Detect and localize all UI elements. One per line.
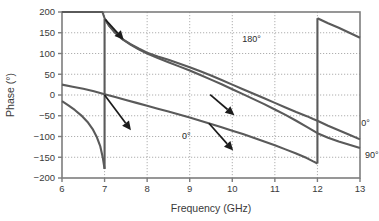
y-tick-label: 100 [39, 48, 55, 59]
annotation-label: 0° [361, 118, 370, 128]
phase-vs-frequency-figure: 180°0°0°90° 678910111213200150100500−50−… [0, 0, 379, 221]
y-axis-title: Phase (°) [4, 73, 16, 117]
x-axis-title: Frequency (GHz) [171, 202, 252, 214]
y-tick-label: 50 [44, 69, 55, 80]
y-tick-label: 150 [39, 27, 55, 38]
y-tick-label: 200 [39, 6, 55, 17]
chart-canvas: 180°0°0°90° 678910111213200150100500−50−… [0, 0, 379, 221]
annotation-label: 90° [365, 150, 379, 160]
x-tick-label: 11 [270, 183, 280, 194]
x-tick-label: 7 [102, 183, 107, 194]
y-tick-label: −200 [34, 172, 55, 183]
x-tick-label: 10 [227, 183, 238, 194]
annotation-label: 180° [242, 34, 261, 44]
annotation-label: 0° [182, 131, 191, 141]
x-tick-label: 6 [59, 183, 64, 194]
y-tick-label: −100 [34, 131, 55, 142]
y-tick-label: −150 [34, 152, 55, 163]
y-tick-label: −50 [39, 110, 55, 121]
y-tick-label: 0 [50, 89, 55, 100]
x-tick-label: 13 [355, 183, 366, 194]
x-tick-label: 9 [187, 183, 192, 194]
x-tick-label: 8 [144, 183, 149, 194]
x-tick-label: 12 [312, 183, 323, 194]
